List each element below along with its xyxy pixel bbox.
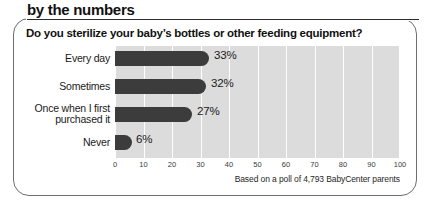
- gridline: [258, 46, 259, 158]
- category-label-never: Never: [6, 137, 110, 149]
- gridline: [343, 46, 344, 158]
- category-axis-labels: Every day Sometimes Once when I first pu…: [6, 46, 110, 158]
- bar-every-day: [115, 51, 209, 66]
- gridline: [372, 46, 373, 158]
- value-label-sometimes: 32%: [211, 77, 233, 89]
- value-label-once-when-first-purchased: 27%: [197, 105, 219, 117]
- xtick-100: 100: [390, 160, 410, 169]
- source-note: Based on a poll of 4,793 BabyCenter pare…: [235, 174, 400, 184]
- xtick-10: 10: [134, 160, 154, 169]
- xtick-40: 40: [219, 160, 239, 169]
- value-label-never: 6%: [136, 133, 152, 145]
- xtick-90: 90: [362, 160, 382, 169]
- category-label-sometimes: Sometimes: [6, 81, 110, 93]
- title-underline-divider: [27, 19, 419, 20]
- xtick-0: 0: [105, 160, 125, 169]
- page-title: by the numbers: [27, 2, 135, 18]
- bar-once-when-first-purchased: [115, 107, 192, 122]
- gridline: [399, 46, 400, 158]
- bar-chart-plot-area: [115, 46, 400, 158]
- xtick-60: 60: [276, 160, 296, 169]
- xtick-20: 20: [162, 160, 182, 169]
- category-label-every-day: Every day: [6, 53, 110, 65]
- gridline: [286, 46, 287, 158]
- xtick-50: 50: [248, 160, 268, 169]
- category-label-once-when-first-purchased-line2: purchased it: [6, 114, 110, 126]
- xtick-80: 80: [333, 160, 353, 169]
- xtick-30: 30: [191, 160, 211, 169]
- bar-sometimes: [115, 79, 206, 94]
- chart-question-title: Do you sterilize your baby’s bottles or …: [26, 27, 362, 39]
- xtick-70: 70: [305, 160, 325, 169]
- gridline: [315, 46, 316, 158]
- value-label-every-day: 33%: [214, 49, 236, 61]
- bar-never: [115, 135, 132, 150]
- gridline: [229, 46, 230, 158]
